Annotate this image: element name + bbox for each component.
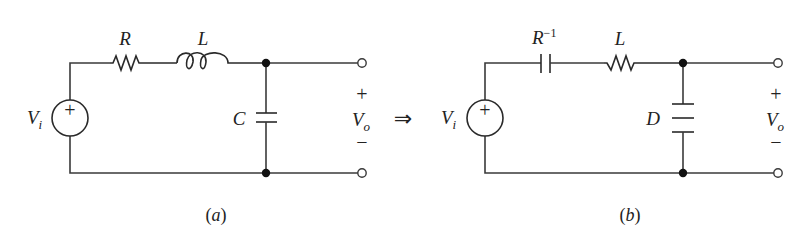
circuit-b: + Vi R−1 L D + Vo −: [441, 26, 785, 226]
inductor-l-a: [177, 53, 266, 69]
output-b-plus: +: [770, 83, 781, 105]
inductor-l-label: L: [197, 28, 209, 49]
capacitor-rinv-b: [541, 54, 604, 73]
resistor-r-label: R: [118, 28, 131, 49]
wire-b-left-top: [485, 63, 541, 100]
circuit-figure: + Vi R L C + Vo −: [0, 0, 808, 242]
terminal-b-top: [774, 59, 782, 67]
voltage-source-a: +: [52, 99, 88, 136]
wire-a-left-top: [70, 63, 110, 100]
fdnr-d-label: D: [645, 108, 660, 129]
fdnr-d-b: [672, 63, 694, 173]
capacitor-c-a: [256, 63, 277, 173]
resistor-r-a: [110, 56, 177, 70]
capacitor-c-label: C: [233, 108, 246, 129]
junction-b-bottom: [679, 169, 687, 177]
capacitor-rinv-label: R−1: [531, 26, 556, 48]
caption-a: (a): [206, 205, 227, 226]
wire-a-left-bottom: [70, 136, 266, 173]
terminal-a-top: [358, 59, 366, 67]
terminal-b-bottom: [774, 169, 782, 177]
output-b-minus: −: [770, 131, 781, 153]
voltage-source-b: +: [467, 99, 503, 136]
caption-b: (b): [620, 205, 641, 226]
wire-b-left-bottom: [485, 136, 683, 173]
output-a-minus: −: [356, 131, 367, 153]
source-a-plus-sign: +: [64, 99, 75, 121]
circuit-a: + Vi R L C + Vo −: [27, 28, 371, 226]
junction-a-top: [262, 59, 270, 67]
terminal-a-bottom: [358, 169, 366, 177]
source-b-plus-sign: +: [479, 99, 490, 121]
resistor-l-label: L: [614, 28, 626, 49]
junction-b-top: [679, 59, 687, 67]
source-a-label: Vi: [27, 107, 43, 132]
junction-a-bottom: [262, 169, 270, 177]
resistor-l-b: [604, 56, 683, 70]
transform-arrow: ⇒: [394, 106, 412, 131]
source-b-label: Vi: [441, 107, 457, 132]
output-a-plus: +: [356, 83, 367, 105]
